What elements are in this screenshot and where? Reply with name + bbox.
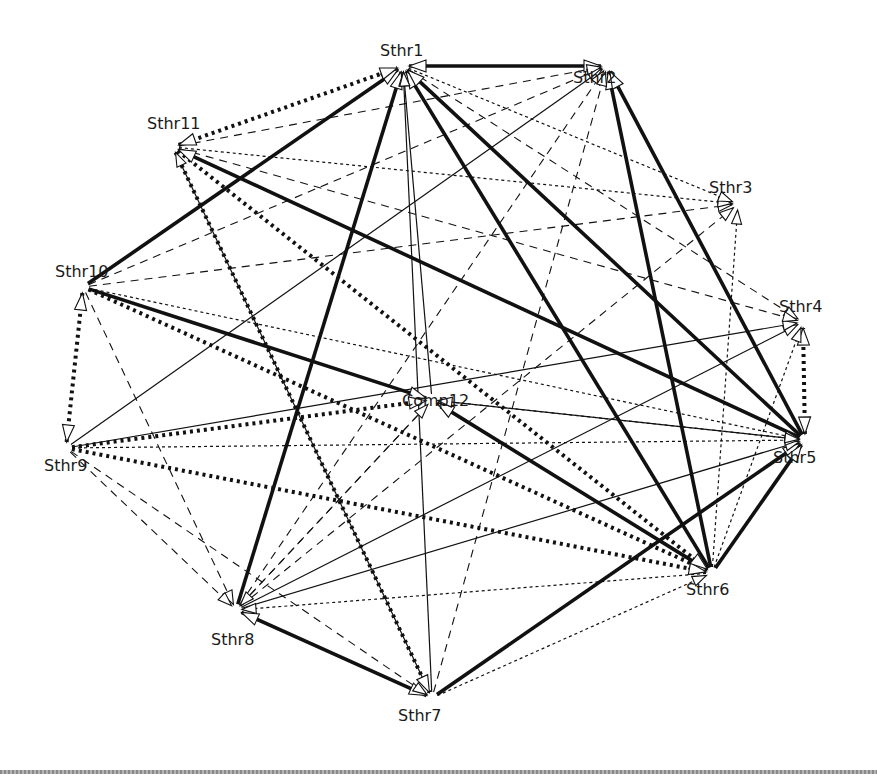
edge-comp12-to-sthr1[interactable] xyxy=(404,72,432,394)
edge-sthr6-to-comp12[interactable] xyxy=(437,403,707,570)
edge-sthr10-to-sthr1[interactable] xyxy=(88,69,398,283)
node-label-sthr4[interactable]: Sthr4 xyxy=(779,297,822,316)
edge-comp12-to-sthr5[interactable] xyxy=(438,401,799,440)
edge-sthr11-to-sthr1[interactable] xyxy=(179,68,398,145)
node-label-comp12[interactable]: Comp12 xyxy=(402,391,469,410)
edge-sthr10-to-comp12[interactable] xyxy=(89,289,427,398)
arrowhead-icon xyxy=(409,60,426,72)
node-label-sthr7[interactable]: Sthr7 xyxy=(398,706,441,725)
node-labels-layer: Sthr1Sthr2Sthr3Sthr4Sthr5Sthr6Sthr7Sthr8… xyxy=(44,41,822,725)
edge-sthr1-to-sthr3[interactable] xyxy=(409,68,733,201)
arrowhead-icon xyxy=(179,134,197,145)
node-label-sthr2[interactable]: Sthr2 xyxy=(573,68,616,87)
node-label-sthr9[interactable]: Sthr9 xyxy=(44,456,87,475)
edge-sthr7-to-sthr2[interactable] xyxy=(434,72,606,692)
arrowhead-icon xyxy=(75,293,87,311)
edge-sthr7-to-sthr6[interactable] xyxy=(437,575,706,695)
edge-sthr9-to-comp12[interactable] xyxy=(72,401,426,447)
node-label-sthr5[interactable]: Sthr5 xyxy=(773,448,816,467)
arrowhead-icon xyxy=(241,612,259,624)
arrowheads-layer xyxy=(62,60,810,696)
edge-sthr10-to-sthr5[interactable] xyxy=(89,288,799,439)
arrowhead-icon xyxy=(732,210,742,224)
network-diagram: Sthr1Sthr2Sthr3Sthr4Sthr5Sthr6Sthr7Sthr8… xyxy=(0,0,877,784)
edge-sthr10-to-sthr9[interactable] xyxy=(67,293,83,442)
edge-sthr6-to-sthr1[interactable] xyxy=(406,71,709,568)
node-label-sthr6[interactable]: Sthr6 xyxy=(686,580,729,599)
edge-sthr9-to-sthr5[interactable] xyxy=(72,440,799,448)
node-label-sthr11[interactable]: Sthr11 xyxy=(147,114,201,133)
edge-sthr8-to-sthr7[interactable] xyxy=(241,612,426,695)
node-label-sthr3[interactable]: Sthr3 xyxy=(709,178,752,197)
edge-sthr6-to-sthr2[interactable] xyxy=(608,72,711,567)
edge-sthr10-to-sthr8[interactable] xyxy=(86,292,234,604)
node-label-sthr1[interactable]: Sthr1 xyxy=(380,41,423,60)
arrowhead-icon xyxy=(62,424,74,442)
edge-sthr9-to-sthr8[interactable] xyxy=(70,452,231,606)
node-label-sthr10[interactable]: Sthr10 xyxy=(55,262,109,281)
edge-sthr11-to-sthr3[interactable] xyxy=(179,148,732,204)
bottom-divider xyxy=(0,770,877,774)
edge-sthr7-to-sthr1[interactable] xyxy=(403,72,431,692)
edge-sthr5-to-sthr11[interactable] xyxy=(178,150,799,438)
edge-sthr8-to-sthr2[interactable] xyxy=(239,71,603,605)
edge-sthr6-to-sthr8[interactable] xyxy=(242,573,706,609)
node-label-sthr8[interactable]: Sthr8 xyxy=(211,630,254,649)
edge-sthr6-to-sthr3[interactable] xyxy=(712,210,737,567)
edge-sthr5-to-sthr2[interactable] xyxy=(610,71,802,434)
edge-sthr8-to-sthr3[interactable] xyxy=(241,208,734,606)
